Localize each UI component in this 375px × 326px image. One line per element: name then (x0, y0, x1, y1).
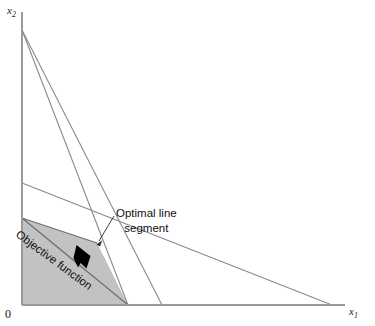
lp-graph-figure: x2 x1 0 Optimal line segment Objective f… (0, 0, 375, 326)
origin-label: 0 (5, 307, 11, 322)
x-axis-label: x1 (349, 305, 358, 320)
optimal-segment-annotation: Optimal line segment (116, 206, 177, 236)
optimal-leader-line (99, 216, 114, 241)
optimal-annotation-line1: Optimal line (116, 207, 177, 219)
optimal-annotation-line2: segment (116, 221, 177, 236)
x-axis-label-subscript: 1 (354, 311, 358, 320)
y-axis-label-subscript: 2 (12, 10, 16, 19)
y-axis-label: x2 (7, 4, 16, 19)
plot-canvas (0, 0, 375, 326)
